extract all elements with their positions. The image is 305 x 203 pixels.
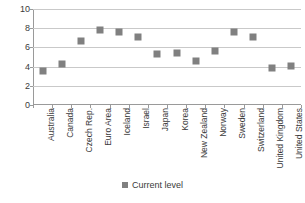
x-axis-category-label: Israel [142, 108, 151, 129]
x-axis-category-label: Australia [47, 108, 56, 141]
x-axis-category-label: Japan [161, 108, 170, 131]
data-point-marker [58, 60, 65, 67]
y-axis-line [33, 9, 34, 105]
plot-area [33, 9, 301, 105]
gridline [33, 28, 301, 29]
x-axis-category-label: Canada [66, 108, 75, 138]
y-axis-tick [30, 86, 33, 87]
data-point-marker [154, 51, 161, 58]
chart-plot-wrapper: 0246810 AustraliaCanadaCzech Rep.Euro Ar… [0, 0, 305, 203]
chart-legend: Current level [0, 180, 305, 190]
gridline [33, 9, 301, 10]
y-axis-tick-labels: 0246810 [10, 9, 30, 105]
data-point-marker [269, 64, 276, 71]
data-point-marker [288, 62, 295, 69]
x-axis-category-label: Sweden [238, 108, 247, 139]
data-point-marker [231, 29, 238, 36]
data-point-marker [97, 27, 104, 34]
x-axis-category-label: Euro Area [104, 108, 113, 146]
x-axis-category-label: Czech Rep. [85, 108, 94, 152]
data-point-marker [173, 50, 180, 57]
data-point-marker [250, 33, 257, 40]
x-axis-category-label: Switzerland [257, 108, 266, 152]
chart-container: 0246810 AustraliaCanadaCzech Rep.Euro Ar… [0, 0, 305, 203]
x-axis-category-label: New Zealand [200, 108, 209, 158]
x-axis-category-label: United States [295, 108, 304, 159]
x-axis-category-label: Korea [181, 108, 190, 131]
data-point-marker [39, 68, 46, 75]
y-axis-tick [30, 28, 33, 29]
gridline [33, 86, 301, 87]
data-point-marker [192, 57, 199, 64]
data-point-marker [135, 33, 142, 40]
gridline [33, 47, 301, 48]
x-axis-category-label: Iceland [123, 108, 132, 135]
y-axis-tick [30, 47, 33, 48]
y-axis-tick [30, 67, 33, 68]
data-point-marker [211, 48, 218, 55]
data-point-marker [116, 29, 123, 36]
data-point-marker [77, 37, 84, 44]
x-axis-category-labels: AustraliaCanadaCzech Rep.Euro AreaIcelan… [33, 106, 301, 172]
legend-label-current-level: Current level [132, 180, 183, 190]
x-axis-category-label: Norway [219, 108, 228, 137]
gridline [33, 67, 301, 68]
legend-swatch-current-level [122, 182, 128, 188]
y-axis-tick [30, 9, 33, 10]
y-axis-tick-label: 10 [20, 5, 30, 14]
x-axis-category-label: United Kingdom [276, 108, 285, 168]
